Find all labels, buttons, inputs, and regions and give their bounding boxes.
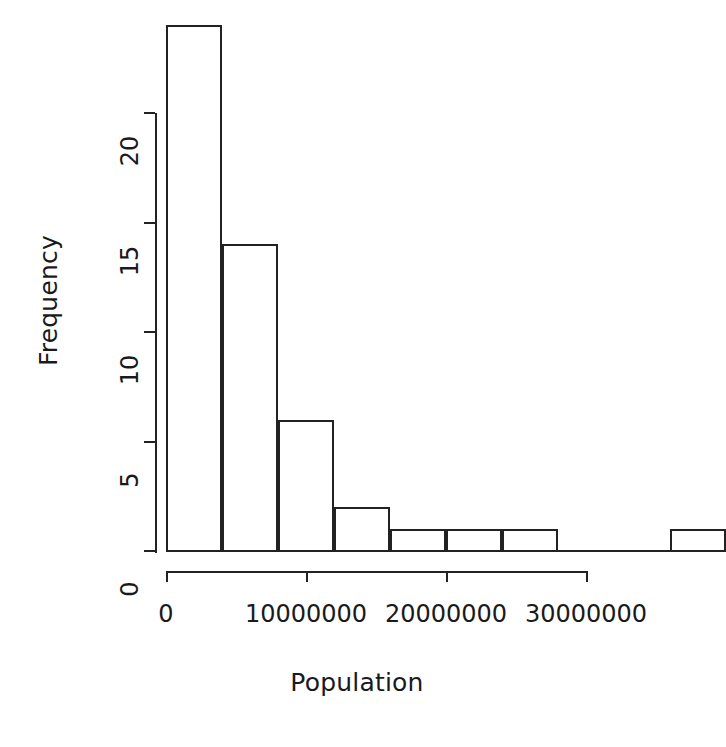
- histogram-bar: [278, 420, 334, 552]
- histogram-bar: [222, 244, 278, 552]
- y-axis-line: [155, 113, 157, 553]
- x-axis-line: [166, 571, 588, 573]
- y-axis-tick: [144, 112, 155, 114]
- x-axis-tick: [166, 571, 168, 582]
- y-axis-tick-label: 20: [116, 111, 144, 191]
- y-axis-title: Frequency: [0, 0, 96, 600]
- histogram-bar: [670, 529, 726, 552]
- x-axis-tick: [446, 571, 448, 582]
- x-axis-tick-label: 30000000: [496, 600, 676, 628]
- y-axis-tick: [144, 222, 155, 224]
- y-axis-tick-label: 15: [116, 221, 144, 301]
- x-axis-tick: [306, 571, 308, 582]
- histogram-bar: [390, 529, 446, 552]
- histogram-bar: [446, 529, 502, 552]
- y-axis-tick: [144, 550, 155, 552]
- x-axis-tick: [586, 571, 588, 582]
- histogram-bar: [502, 529, 558, 552]
- y-axis-tick: [144, 441, 155, 443]
- y-axis-tick-label: 10: [116, 330, 144, 410]
- y-axis-title-text: Frequency: [34, 235, 63, 366]
- histogram-bar: [334, 507, 390, 552]
- x-axis-title: Population: [0, 668, 714, 697]
- histogram-bar: [166, 25, 222, 552]
- y-axis-tick: [144, 331, 155, 333]
- y-axis-tick-label: 5: [116, 440, 144, 520]
